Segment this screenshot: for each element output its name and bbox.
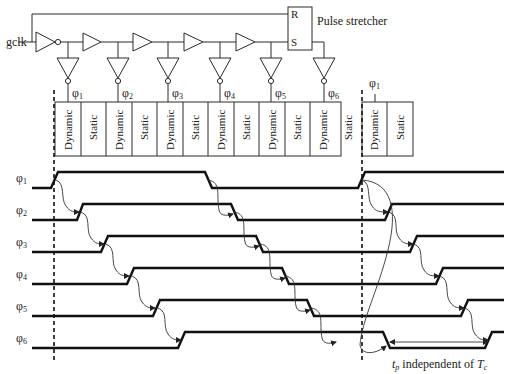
svg-text:φ1: φ1	[72, 86, 83, 101]
causality-arrows	[56, 180, 488, 353]
tp-annotation: tp independent of Tc	[392, 357, 488, 372]
dynamic-block-label: Dynamic	[317, 110, 329, 150]
static-block-label: Static	[291, 115, 303, 140]
static-block-label: Static	[138, 115, 150, 140]
svg-text:φ1: φ1	[369, 76, 380, 91]
inverter-icon	[107, 58, 129, 78]
phi2-waveform	[32, 204, 504, 220]
inverter-icon	[209, 58, 231, 78]
pulse-stretcher-label: Pulse stretcher	[317, 14, 387, 28]
buffer-icon	[133, 33, 152, 51]
static-block-label: Static	[87, 115, 99, 140]
svg-text:φ4: φ4	[16, 267, 27, 282]
dynamic-block-label: Dynamic	[164, 110, 176, 150]
phi5-waveform	[32, 300, 504, 316]
svg-text:φ3: φ3	[172, 86, 183, 101]
svg-text:φ2: φ2	[122, 86, 133, 101]
signal-labels: φ1 φ2 φ3 φ4 φ5 φ6	[16, 171, 27, 346]
waveforms	[32, 172, 504, 348]
latch-output-wire	[312, 42, 324, 58]
static-block-label: Static	[342, 115, 354, 140]
static-block-label: Static	[394, 115, 406, 140]
svg-text:φ5: φ5	[16, 299, 27, 314]
svg-text:φ3: φ3	[16, 235, 27, 250]
static-block-label: Static	[189, 115, 201, 140]
dynamic-block-label: Dynamic	[368, 110, 380, 150]
svg-text:φ2: φ2	[16, 203, 27, 218]
phi6-waveform	[32, 332, 504, 348]
dynamic-block-label: Dynamic	[266, 110, 278, 150]
dynamic-block-label: Dynamic	[62, 110, 74, 150]
inverter-icon	[260, 58, 282, 78]
buffer-icon	[184, 33, 203, 51]
s-pin-label: S	[291, 36, 297, 48]
inverter-icon	[36, 32, 61, 52]
r-pin-label: R	[291, 8, 299, 20]
skew-tolerant-domino-diagram: gclk R S Pulse stretcher	[0, 0, 512, 374]
pipeline-blocks: Dynamic Static Dynamic Static Dynamic St…	[55, 102, 413, 156]
clock-generator: gclk R S Pulse stretcher	[6, 7, 387, 102]
inverter-icon	[57, 58, 79, 78]
inverter-icon	[313, 58, 335, 78]
static-block-label: Static	[240, 115, 252, 140]
svg-text:φ6: φ6	[16, 331, 27, 346]
svg-text:φ5: φ5	[275, 86, 286, 101]
dynamic-block-label: Dynamic	[113, 110, 125, 150]
svg-text:φ4: φ4	[224, 86, 235, 101]
inverter-icon	[157, 58, 179, 78]
dynamic-block-label: Dynamic	[215, 110, 227, 150]
buffer-icon	[83, 33, 101, 51]
phi1-waveform	[32, 172, 504, 188]
svg-text:φ6: φ6	[328, 86, 339, 101]
reset-feedback-wire	[32, 14, 288, 42]
buffer-icon	[236, 33, 255, 51]
svg-text:φ1: φ1	[16, 171, 27, 186]
